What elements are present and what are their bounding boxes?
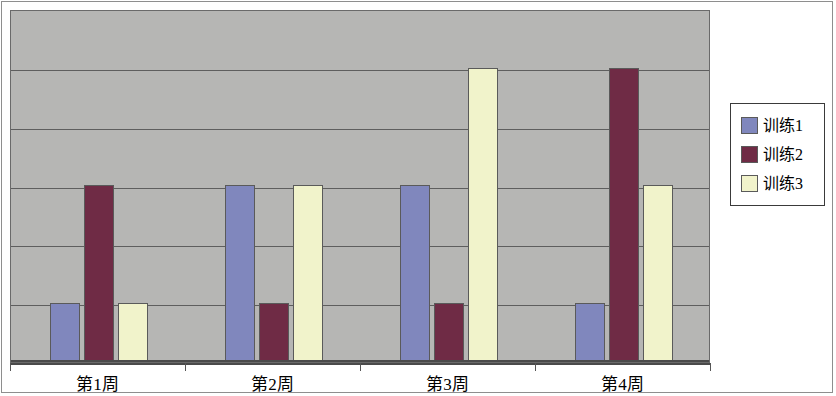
chart-legend: 训练1训练2训练3 — [730, 103, 825, 206]
x-axis-label-3: 第3周 — [360, 368, 535, 396]
x-axis-label-4: 第4周 — [535, 368, 710, 396]
bar-训练2-第3周 — [434, 303, 464, 362]
legend-swatch-icon — [741, 146, 758, 163]
legend-item-label: 训练2 — [763, 147, 803, 163]
x-axis-tick — [710, 363, 711, 371]
bar-训练3-第2周 — [293, 185, 323, 362]
legend-swatch-icon — [741, 175, 758, 192]
bar-训练3-第4周 — [643, 185, 673, 362]
legend-item-label: 训练3 — [763, 176, 803, 192]
bar-训练2-第4周 — [609, 68, 639, 362]
bar-训练1-第4周 — [575, 303, 605, 362]
bar-训练1-第2周 — [225, 185, 255, 362]
x-axis-label-1: 第1周 — [10, 368, 185, 396]
legend-item-3[interactable]: 训练3 — [741, 169, 824, 198]
bar-训练3-第1周 — [118, 303, 148, 362]
x-axis-labels: 第1周第2周第3周第4周 — [10, 368, 710, 396]
bar-训练1-第3周 — [400, 185, 430, 362]
plot-area — [10, 10, 710, 363]
bar-训练3-第3周 — [468, 68, 498, 362]
x-axis-label-2: 第2周 — [185, 368, 360, 396]
bar-训练2-第2周 — [259, 303, 289, 362]
legend-item-label: 训练1 — [763, 118, 803, 134]
legend-item-2[interactable]: 训练2 — [741, 140, 824, 169]
bars-layer — [11, 11, 709, 362]
chart-figure: 第1周第2周第3周第4周 训练1训练2训练3 — [0, 0, 836, 396]
axis-baseline — [11, 360, 709, 362]
legend-item-1[interactable]: 训练1 — [741, 111, 824, 140]
legend-swatch-icon — [741, 117, 758, 134]
bar-训练2-第1周 — [84, 185, 114, 362]
bar-训练1-第1周 — [50, 303, 80, 362]
